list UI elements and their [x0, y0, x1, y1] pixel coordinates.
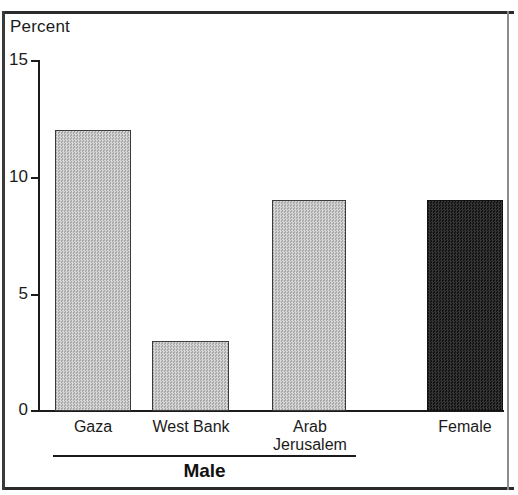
y-tick-label-0: 0 [19, 400, 28, 420]
x-label-arab-jerusalem-line2: Jerusalem [257, 436, 363, 454]
chart-figure: Percent 15 10 5 0 Gaza West Bank Arab Je… [0, 0, 518, 495]
group-bracket-label-male: Male [53, 460, 356, 482]
x-label-arab-jerusalem-line1: Arab [265, 418, 355, 436]
y-tick-label-5: 5 [19, 284, 28, 304]
bar-west-bank [152, 341, 229, 411]
group-bracket-rule-male [53, 455, 356, 457]
bar-female [427, 200, 503, 411]
y-tick-mark-10 [31, 177, 39, 179]
bar-arab-jerusalem [272, 200, 346, 411]
y-axis-title: Percent [10, 17, 70, 37]
y-tick-mark-5 [31, 294, 39, 296]
x-label-female: Female [423, 418, 507, 436]
x-label-west-bank: West Bank [140, 418, 242, 436]
y-tick-label-10-wrap: 10 [0, 167, 28, 187]
y-tick-label-0-wrap: 0 [0, 400, 28, 420]
y-tick-label-5-wrap: 5 [0, 284, 28, 304]
plot-area: Percent 15 10 5 0 Gaza West Bank Arab Je… [0, 0, 518, 495]
y-tick-mark-0 [31, 410, 39, 412]
bar-gaza [55, 130, 131, 411]
y-tick-mark-15 [31, 60, 39, 62]
x-label-gaza: Gaza [53, 418, 133, 436]
y-tick-label-15-wrap: 15 [0, 50, 28, 70]
y-tick-label-10: 10 [9, 167, 28, 187]
y-tick-label-15: 15 [9, 50, 28, 70]
y-axis-line [38, 60, 40, 412]
